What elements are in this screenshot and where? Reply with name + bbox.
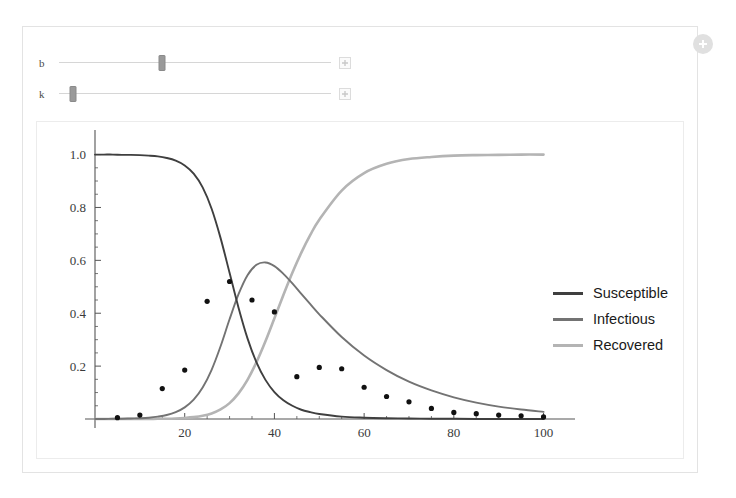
svg-text:40: 40: [268, 425, 281, 440]
slider-track-k[interactable]: [59, 93, 331, 94]
slider-handle-k[interactable]: [69, 86, 76, 102]
slider-b[interactable]: [59, 54, 331, 72]
legend-swatch-susceptible: [553, 292, 583, 295]
legend-swatch-recovered: [553, 344, 583, 347]
svg-text:20: 20: [178, 425, 191, 440]
control-row-b: b: [39, 54, 331, 72]
slider-label-b: b: [39, 54, 55, 72]
slider-k[interactable]: [59, 85, 331, 103]
svg-text:0.6: 0.6: [70, 253, 87, 268]
manipulate-panel: b k 204060801000.20.40.60.81.0: [22, 26, 698, 473]
legend-label-recovered: Recovered: [593, 337, 663, 353]
legend-item-susceptible: Susceptible: [553, 280, 703, 306]
slider-track-b[interactable]: [59, 62, 331, 63]
slider-label-k: k: [39, 85, 55, 103]
legend-label-infectious: Infectious: [593, 311, 655, 327]
svg-text:100: 100: [534, 425, 554, 440]
plus-circle-icon[interactable]: [693, 34, 713, 54]
legend-item-infectious: Infectious: [553, 306, 703, 332]
slider-handle-b[interactable]: [159, 55, 166, 71]
svg-text:0.2: 0.2: [70, 359, 86, 374]
svg-text:0.4: 0.4: [70, 306, 87, 321]
control-row-k: k: [39, 85, 331, 103]
plus-box-icon-k[interactable]: [339, 88, 351, 100]
legend-label-susceptible: Susceptible: [593, 285, 668, 301]
svg-text:80: 80: [447, 425, 460, 440]
plot-legend: Susceptible Infectious Recovered: [553, 280, 703, 358]
svg-text:60: 60: [358, 425, 371, 440]
svg-text:0.8: 0.8: [70, 200, 86, 215]
plus-box-icon-b[interactable]: [339, 57, 351, 69]
legend-item-recovered: Recovered: [553, 332, 703, 358]
svg-text:1.0: 1.0: [70, 147, 86, 162]
legend-swatch-infectious: [553, 318, 583, 321]
